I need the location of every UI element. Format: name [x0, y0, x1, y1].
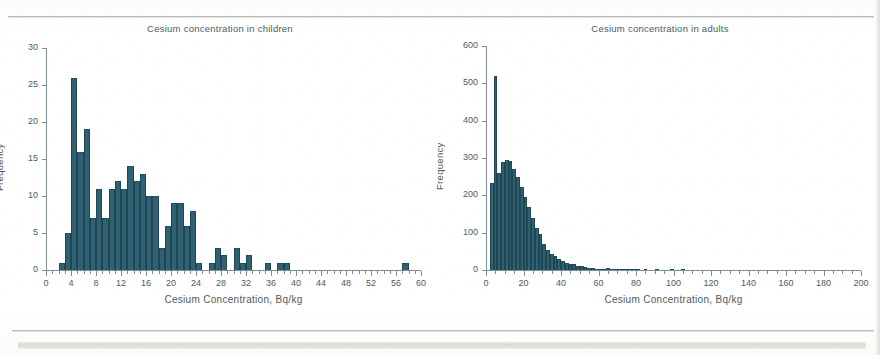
x-axis-tick-minor [202, 271, 203, 274]
page-rule-bottom [12, 330, 874, 331]
x-axis-tick-minor [702, 271, 703, 274]
x-axis-tick-major [636, 271, 637, 276]
x-axis-tick-minor [90, 271, 91, 274]
x-axis-tick-major [711, 271, 712, 276]
x-axis-tick-minor [692, 271, 693, 274]
x-axis-tick-major [171, 271, 172, 276]
chart-adults: Cesium concentration in adults Frequency… [440, 18, 880, 328]
x-axis-tick-minor [340, 271, 341, 274]
y-axis-tick [42, 48, 46, 49]
x-axis-tick-major [749, 271, 750, 276]
x-axis-tick-minor [608, 271, 609, 274]
y-axis-tick [482, 158, 486, 159]
x-axis-tick-minor [65, 271, 66, 274]
y-axis-line [486, 46, 487, 270]
x-axis-tick-label: 60 [583, 278, 615, 288]
histogram-bar [221, 255, 227, 270]
x-axis-tick-minor [514, 271, 515, 274]
x-axis-tick-minor [315, 271, 316, 274]
chart-title-children: Cesium concentration in children [0, 23, 440, 34]
histogram-bar [284, 263, 290, 270]
x-axis-tick-label: 180 [808, 278, 840, 288]
x-axis-tick-minor [77, 271, 78, 274]
x-axis-tick-minor [384, 271, 385, 274]
y-axis-tick [482, 233, 486, 234]
x-axis-tick-minor [284, 271, 285, 274]
x-axis-tick-minor [240, 271, 241, 274]
x-axis-tick-major [96, 271, 97, 276]
x-axis-tick-minor [227, 271, 228, 274]
x-axis-tick-label: 80 [620, 278, 652, 288]
x-axis-tick-minor [664, 271, 665, 274]
plot-area-children [46, 48, 421, 270]
x-axis-tick-minor [533, 271, 534, 274]
x-axis-tick-major [296, 271, 297, 276]
chart-title-adults: Cesium concentration in adults [440, 23, 880, 34]
x-axis-tick-minor [505, 271, 506, 274]
x-axis-tick-minor [627, 271, 628, 274]
x-axis-tick-minor [84, 271, 85, 274]
x-axis-tick-minor [140, 271, 141, 274]
x-axis-tick-major [71, 271, 72, 276]
x-axis-tick-major [146, 271, 147, 276]
x-axis-tick-minor [59, 271, 60, 274]
x-axis-tick-major [46, 271, 47, 276]
x-axis-tick-minor [580, 271, 581, 274]
x-axis-tick-minor [730, 271, 731, 274]
x-axis-tick-minor [215, 271, 216, 274]
x-axis-tick-major [221, 271, 222, 276]
chart-children: Cesium concentration in children Frequen… [0, 18, 440, 328]
y-axis-label-children: Frequency [0, 143, 5, 191]
x-axis-tick-minor [159, 271, 160, 274]
x-axis-tick-minor [327, 271, 328, 274]
x-axis-tick-minor [655, 271, 656, 274]
y-axis-tick-label: 10 [2, 190, 38, 200]
x-axis-tick-label: 160 [770, 278, 802, 288]
x-axis-tick-label: 120 [695, 278, 727, 288]
y-axis-tick-label: 500 [442, 77, 478, 87]
x-axis-label-adults: Cesium Concentration, Bq/kg [486, 294, 861, 305]
x-axis-tick-minor [402, 271, 403, 274]
x-axis-tick-minor [115, 271, 116, 274]
x-axis-tick-major [599, 271, 600, 276]
x-axis-tick-minor [277, 271, 278, 274]
x-axis-tick-minor [570, 271, 571, 274]
x-axis-tick-minor [758, 271, 759, 274]
figure-panel: Cesium concentration in children Frequen… [0, 18, 880, 328]
x-axis-tick-minor [842, 271, 843, 274]
x-axis-tick-minor [365, 271, 366, 274]
x-axis-tick-minor [542, 271, 543, 274]
y-axis-tick-label: 20 [2, 116, 38, 126]
x-axis-tick-minor [265, 271, 266, 274]
y-axis-line [46, 48, 47, 270]
x-axis-tick-minor [409, 271, 410, 274]
y-axis-tick-label: 30 [2, 42, 38, 52]
histogram-bar [246, 255, 252, 270]
x-axis-tick-label: 200 [845, 278, 877, 288]
y-axis-tick-label: 400 [442, 115, 478, 125]
x-axis-tick-major [396, 271, 397, 276]
y-axis-tick-label: 200 [442, 189, 478, 199]
x-axis-tick-minor [259, 271, 260, 274]
x-axis-tick-major [486, 271, 487, 276]
x-axis-tick-minor [777, 271, 778, 274]
x-axis-tick-major [246, 271, 247, 276]
x-axis-tick-minor [252, 271, 253, 274]
x-axis-tick-minor [645, 271, 646, 274]
x-axis-tick-minor [617, 271, 618, 274]
x-axis-tick-minor [165, 271, 166, 274]
x-axis-tick-minor [495, 271, 496, 274]
y-axis-tick-label: 15 [2, 153, 38, 163]
x-axis-tick-minor [177, 271, 178, 274]
x-axis-tick-minor [795, 271, 796, 274]
y-axis-tick [42, 122, 46, 123]
x-axis-tick-minor [302, 271, 303, 274]
x-axis-tick-major [674, 271, 675, 276]
x-axis-tick-minor [852, 271, 853, 274]
x-axis-tick-minor [390, 271, 391, 274]
histogram-bar [196, 263, 202, 270]
y-axis-label-adults: Frequency [434, 142, 445, 190]
x-axis-tick-minor [52, 271, 53, 274]
x-axis-tick-minor [184, 271, 185, 274]
x-axis-tick-major [561, 271, 562, 276]
